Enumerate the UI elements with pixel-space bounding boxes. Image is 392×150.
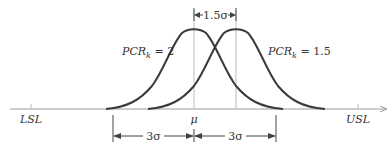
left-span-label: 3σ — [146, 130, 161, 143]
usl-label: USL — [346, 113, 370, 126]
lsl-label: LSL — [19, 113, 42, 126]
curve-right-label: PCRk = 1.5 — [267, 45, 331, 60]
shift-label: 1.5σ — [203, 9, 228, 22]
curve-left-prefix: PCR — [121, 45, 146, 58]
curve-left-value: = 2 — [151, 45, 174, 58]
curve-right-prefix: PCR — [267, 45, 292, 58]
curve-left-label: PCRk = 2 — [121, 45, 174, 60]
right-span-label: 3σ — [228, 130, 243, 143]
curve-right-value: = 1.5 — [297, 45, 331, 58]
capability-diagram: 1.5σ 3σ 3σ LSL USL μ PCRk = 2 PCRk = 1.5 — [0, 0, 392, 150]
mu-label: μ — [190, 113, 197, 126]
